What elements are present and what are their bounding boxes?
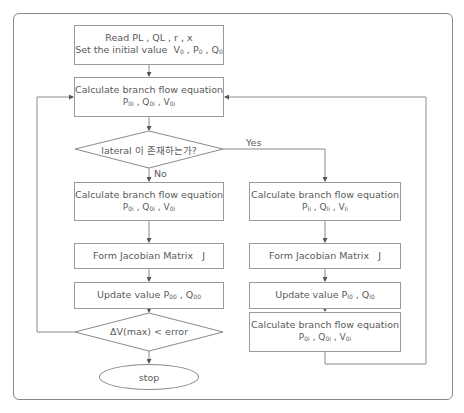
left-update-text: Update value P00 , Q00 (97, 289, 201, 303)
stop-terminal: stop (99, 364, 199, 390)
calc-main-vars: P0i , Q0i , V0i (123, 96, 175, 110)
start-line-1: Read PL , QL , r , x (105, 32, 192, 44)
right-jacobian-text: Form Jacobian Matrix J (269, 250, 381, 262)
yes-label: Yes (246, 137, 261, 148)
start-input-box: Read PL , QL , r , x Set the initial val… (74, 25, 224, 65)
right-update-box: Update value Pl0 , Ql0 (249, 282, 401, 309)
left-calc-title: Calculate branch flow equation (75, 189, 223, 201)
right-jacobian-box: Form Jacobian Matrix J (249, 243, 401, 269)
calc-main-title: Calculate branch flow equation (75, 84, 223, 96)
left-jacobian-text: Form Jacobian Matrix J (93, 250, 205, 262)
right-update-text: Update value Pl0 , Ql0 (275, 289, 375, 303)
left-update-box: Update value P00 , Q00 (74, 282, 224, 309)
no-label: No (154, 168, 167, 179)
right-calc-title: Calculate branch flow equation (251, 189, 399, 201)
left-calc-vars: P0i , Q0i , V0i (123, 201, 175, 215)
decision-lateral-text: lateral 이 존재하는가? (75, 143, 223, 157)
right-calc-vars: Pli , Qli , Vli (302, 201, 348, 215)
left-jacobian-box: Form Jacobian Matrix J (74, 243, 224, 269)
right-calc-branch-flow-final-box: Calculate branch flow equation P0i , Q0i… (249, 312, 401, 352)
left-calc-branch-flow-box: Calculate branch flow equation P0i , Q0i… (74, 182, 224, 221)
right-calc-branch-flow-box: Calculate branch flow equation Pli , Qli… (249, 182, 401, 221)
calc-branch-flow-main-box: Calculate branch flow equation P0i , Q0i… (74, 77, 224, 117)
decision-error-text: ΔV(max) < error (75, 326, 223, 337)
right-calc2-title: Calculate branch flow equation (251, 319, 399, 331)
right-calc2-vars: P0i , Q0i , V0i (299, 331, 351, 345)
start-line-2: Set the initial value V0 , P0 , Q0 (75, 44, 223, 58)
stop-text: stop (139, 372, 160, 383)
